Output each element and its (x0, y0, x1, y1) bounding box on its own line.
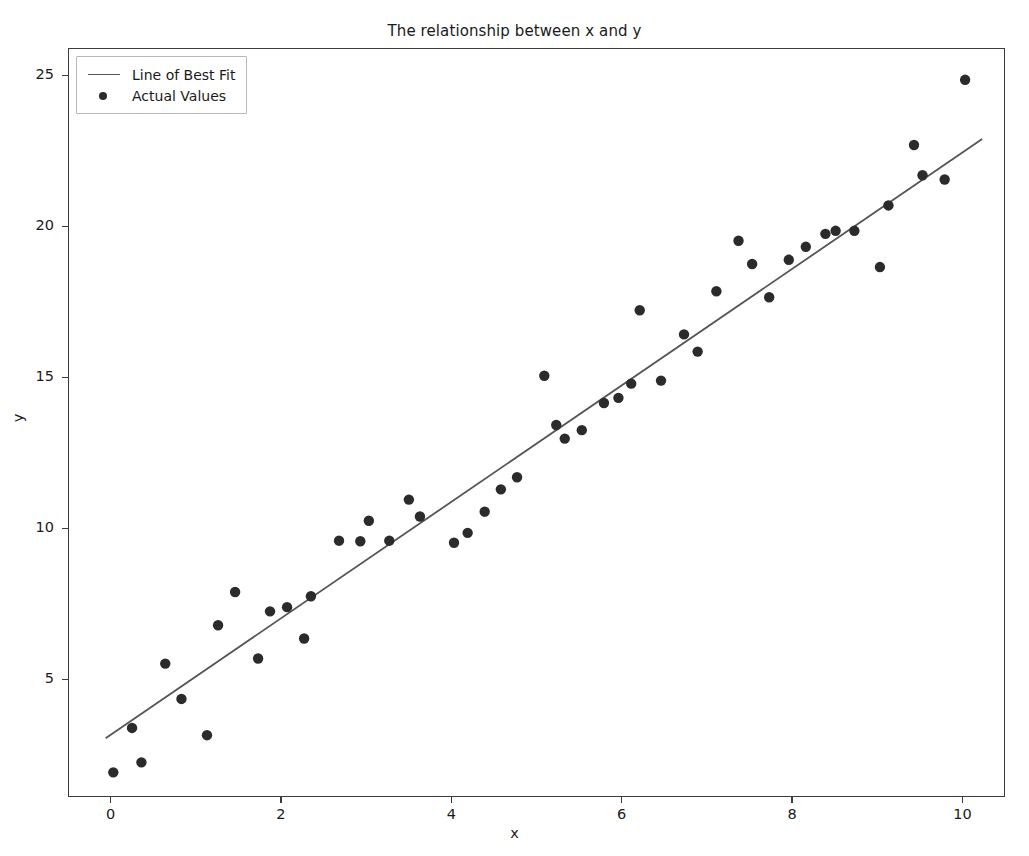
data-point (613, 393, 623, 403)
data-point (849, 226, 859, 236)
data-point (626, 378, 636, 388)
y-tick-label: 15 (8, 368, 54, 384)
x-tick-label: 0 (91, 806, 131, 822)
data-point (355, 536, 365, 546)
x-tick-label: 10 (942, 806, 982, 822)
data-point (656, 375, 666, 385)
chart-title: The relationship between x and y (0, 22, 1029, 40)
x-tick-label: 4 (431, 806, 471, 822)
y-tick-label: 20 (8, 217, 54, 233)
data-point (202, 730, 212, 740)
data-point (551, 420, 561, 430)
x-tick-label: 6 (602, 806, 642, 822)
x-tick-mark (110, 797, 111, 803)
y-tick-mark (62, 679, 68, 680)
data-point (692, 346, 702, 356)
y-tick-mark (62, 75, 68, 76)
data-point (127, 723, 137, 733)
data-point (415, 511, 425, 521)
data-point (747, 259, 757, 269)
data-point (599, 398, 609, 408)
data-point (299, 633, 309, 643)
data-point (539, 371, 549, 381)
data-point (462, 528, 472, 538)
data-point (213, 620, 223, 630)
data-point (282, 602, 292, 612)
actual-values-points (108, 75, 970, 778)
data-point (733, 236, 743, 246)
legend-item-line-of-best-fit: Line of Best Fit (86, 64, 235, 85)
y-tick-label: 25 (8, 66, 54, 82)
data-point (404, 494, 414, 504)
plot-axes-frame (68, 48, 1005, 797)
dot-swatch-icon (86, 89, 122, 103)
legend-label-line-of-best-fit: Line of Best Fit (132, 67, 235, 83)
data-point (496, 484, 506, 494)
line-swatch-icon (86, 68, 122, 82)
data-point (512, 472, 522, 482)
data-point (960, 75, 970, 85)
data-point (917, 170, 927, 180)
y-tick-mark (62, 377, 68, 378)
plot-canvas (69, 49, 1006, 798)
x-tick-label: 2 (261, 806, 301, 822)
x-tick-mark (451, 797, 452, 803)
data-point (801, 242, 811, 252)
data-point (230, 587, 240, 597)
legend-label-actual-values: Actual Values (132, 88, 226, 104)
data-point (764, 292, 774, 302)
y-tick-label: 5 (8, 670, 54, 686)
data-point (136, 757, 146, 767)
data-point (334, 535, 344, 545)
y-axis-label: y (10, 388, 26, 448)
x-tick-mark (791, 797, 792, 803)
data-point (635, 305, 645, 315)
data-point (384, 535, 394, 545)
matplotlib-figure: The relationship between x and y 5101520… (0, 0, 1029, 856)
data-point (449, 538, 459, 548)
data-point (909, 140, 919, 150)
data-point (875, 262, 885, 272)
data-point (479, 506, 489, 516)
data-point (577, 425, 587, 435)
x-tick-label: 8 (772, 806, 812, 822)
data-point (883, 200, 893, 210)
data-point (939, 174, 949, 184)
y-tick-label: 10 (8, 519, 54, 535)
data-point (711, 286, 721, 296)
x-tick-mark (962, 797, 963, 803)
data-point (560, 433, 570, 443)
x-axis-label: x (0, 825, 1029, 841)
data-point (108, 767, 118, 777)
data-point (176, 694, 186, 704)
y-tick-mark (62, 528, 68, 529)
data-point (679, 329, 689, 339)
y-tick-mark (62, 226, 68, 227)
x-tick-mark (280, 797, 281, 803)
data-point (364, 516, 374, 526)
data-point (160, 658, 170, 668)
data-point (253, 653, 263, 663)
data-point (306, 591, 316, 601)
x-tick-mark (621, 797, 622, 803)
data-point (830, 226, 840, 236)
legend-item-actual-values: Actual Values (86, 85, 235, 106)
data-point (820, 229, 830, 239)
chart-legend: Line of Best Fit Actual Values (76, 56, 247, 114)
data-point (265, 606, 275, 616)
data-point (784, 255, 794, 265)
